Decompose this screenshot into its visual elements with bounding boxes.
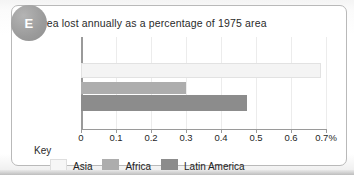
x-axis-labels: 00.10.20.30.40.50.60.7% [81,132,341,146]
x-axis-label: 0.7% [315,132,337,143]
x-axis-label: 0.6 [284,132,297,143]
gridline [326,37,327,129]
x-axis-label: 0 [78,132,83,143]
bar-asia [81,63,321,78]
x-axis-line [81,129,326,130]
screenshot-root: E Area lost annually as a percentage of … [0,0,354,175]
gridline [221,37,222,129]
x-axis-label: 0.4 [214,132,227,143]
key-heading: Key [34,145,51,156]
bar-latin-america [81,95,247,111]
gridline [186,37,187,129]
chart-panel: E Area lost annually as a percentage of … [11,5,347,166]
x-axis-label: 0.3 [179,132,192,143]
gridline [291,37,292,129]
x-axis-label: 0.5 [249,132,262,143]
chart-title: Area lost annually as a percentage of 19… [36,17,267,29]
gridline [256,37,257,129]
x-axis-label: 0.1 [109,132,122,143]
section-badge: E [11,5,47,41]
plot-area [81,37,326,129]
x-axis-label: 0.2 [144,132,157,143]
bar-africa [81,82,186,94]
page-bottom-edge [0,170,354,175]
